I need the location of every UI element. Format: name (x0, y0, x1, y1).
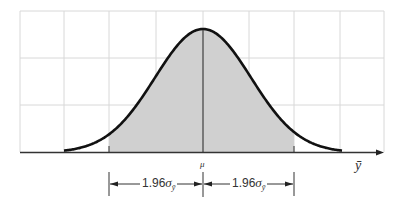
left-interval-subscript: ȳ (172, 183, 176, 192)
left-interval-coef: 1.96 (142, 176, 165, 190)
shaded-95-percent-region (109, 29, 294, 153)
right-interval-label: 1.96σȳ (230, 177, 267, 194)
arrow-right-icon (194, 182, 202, 187)
axis-label: ȳ (355, 158, 361, 174)
arrow-left-icon (110, 182, 118, 187)
right-interval-subscript: ȳ (262, 183, 266, 192)
normal-distribution-diagram (0, 0, 399, 206)
mean-label: μ (200, 159, 205, 169)
left-interval-label: 1.96σȳ (140, 177, 177, 194)
arrow-left-icon (204, 182, 212, 187)
right-interval-coef: 1.96 (232, 176, 255, 190)
axis-arrow-icon (376, 150, 384, 156)
arrow-right-icon (285, 182, 293, 187)
